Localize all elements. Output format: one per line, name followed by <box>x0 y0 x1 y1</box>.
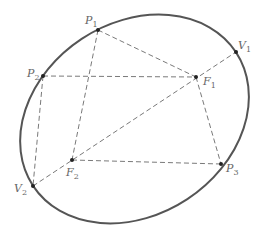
label-f1: F1 <box>202 75 216 90</box>
segment-p1-f2 <box>72 30 98 160</box>
label-p2: P2 <box>26 67 40 82</box>
label-p1: P1 <box>84 14 98 29</box>
label-v1: V1 <box>238 39 251 54</box>
points <box>31 28 238 188</box>
labels: P1 P2 P3 F1 F2 V1 V2 <box>14 14 251 197</box>
segment-f2-p3 <box>72 160 221 164</box>
segment-p2-v2 <box>33 76 43 186</box>
ellipse-diagram: P1 P2 P3 F1 F2 V1 V2 <box>0 0 265 230</box>
focus-f2 <box>70 158 74 162</box>
ellipse-curve <box>0 0 265 230</box>
point-p2 <box>41 74 45 78</box>
label-v2: V2 <box>14 182 27 197</box>
label-p3: P3 <box>225 162 239 177</box>
major-axis-v2-v1 <box>33 52 236 186</box>
focus-f1 <box>194 75 198 79</box>
point-p3 <box>219 162 223 166</box>
segment-p2-f1 <box>43 76 196 77</box>
label-f2: F2 <box>65 166 79 181</box>
segment-p1-f1 <box>98 30 196 77</box>
vertex-v2 <box>31 184 35 188</box>
segment-f1-p3 <box>196 77 221 164</box>
